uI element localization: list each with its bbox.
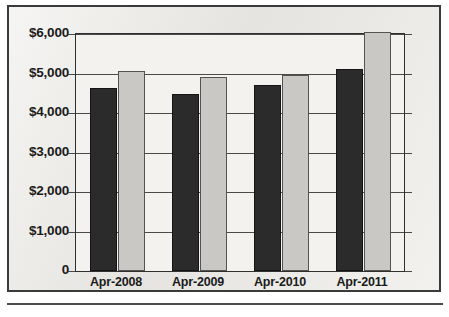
y-axis-label: $5,000 bbox=[29, 66, 69, 80]
x-axis-label: Apr-2008 bbox=[90, 275, 142, 289]
axis-tick-1000 bbox=[405, 232, 412, 233]
plot-area bbox=[75, 33, 405, 272]
y-axis-label: $6,000 bbox=[29, 26, 69, 40]
axis-tick-0 bbox=[68, 271, 75, 272]
y-axis-label: $2,000 bbox=[29, 184, 69, 198]
axis-tick-3000 bbox=[68, 153, 75, 154]
axis-tick-4000 bbox=[68, 113, 75, 114]
gridline-6000 bbox=[76, 34, 404, 35]
axis-tick-6000 bbox=[405, 34, 412, 35]
axis-tick-5000 bbox=[405, 74, 412, 75]
bar-Apr-2008-series-2 bbox=[118, 71, 145, 271]
bar-Apr-2009-series-2 bbox=[200, 77, 227, 271]
y-axis-label: $4,000 bbox=[29, 105, 69, 119]
y-axis-label: $1,000 bbox=[29, 224, 69, 238]
x-axis-label: Apr-2010 bbox=[254, 275, 306, 289]
axis-tick-5000 bbox=[68, 74, 75, 75]
axis-tick-0 bbox=[405, 271, 412, 272]
bar-Apr-2010-series-1 bbox=[254, 85, 281, 271]
bar-Apr-2010-series-2 bbox=[282, 75, 309, 271]
chart-figure: $6,000$5,000$4,000$3,000$2,000$1,0000 Ap… bbox=[7, 5, 441, 292]
axis-tick-2000 bbox=[68, 192, 75, 193]
page-rule-divider bbox=[7, 303, 443, 305]
axis-tick-6000 bbox=[68, 34, 75, 35]
x-axis-tick-labels: Apr-2008Apr-2009Apr-2010Apr-2011 bbox=[75, 275, 405, 297]
x-axis-label: Apr-2009 bbox=[172, 275, 224, 289]
x-axis-label: Apr-2011 bbox=[336, 275, 387, 289]
bar-Apr-2008-series-1 bbox=[90, 88, 117, 271]
y-axis-label: $3,000 bbox=[29, 145, 69, 159]
axis-tick-4000 bbox=[405, 113, 412, 114]
axis-tick-2000 bbox=[405, 192, 412, 193]
bar-Apr-2011-series-2 bbox=[364, 32, 391, 271]
y-axis-label: 0 bbox=[62, 263, 69, 277]
axis-tick-3000 bbox=[405, 153, 412, 154]
y-axis-tick-labels: $6,000$5,000$4,000$3,000$2,000$1,0000 bbox=[9, 33, 69, 272]
bar-Apr-2009-series-1 bbox=[172, 94, 199, 271]
axis-tick-1000 bbox=[68, 232, 75, 233]
bar-Apr-2011-series-1 bbox=[336, 69, 363, 271]
